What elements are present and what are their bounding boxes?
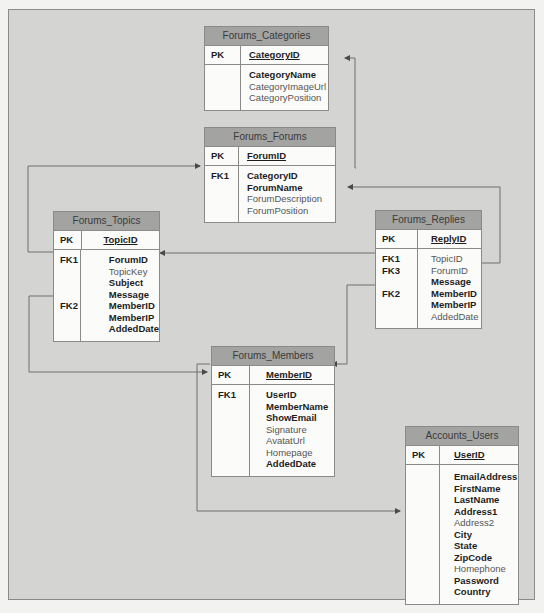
fk-label: FK1	[218, 389, 249, 401]
field: Message	[109, 289, 159, 301]
field: Password	[454, 575, 517, 587]
field: ShowEmail	[266, 412, 328, 424]
field-list: ForumID TopicKey Subject Message MemberI…	[81, 250, 159, 341]
field: MemberID	[431, 288, 479, 300]
table-title: Forums_Members	[212, 347, 334, 366]
field: Address1	[454, 506, 517, 518]
key-column: FK1 FK3 FK2	[376, 249, 418, 328]
fk-label: FK2	[382, 288, 417, 300]
key-column: FK1 FK2	[54, 250, 81, 341]
field: TopicKey	[109, 266, 159, 278]
pk-field: ForumID	[239, 147, 286, 165]
field: AvatatUrl	[266, 435, 328, 447]
table-forums-forums[interactable]: Forums_Forums PK ForumID FK1 CategoryID …	[204, 127, 336, 223]
field: ForumName	[247, 182, 322, 194]
pk-field: MemberID	[250, 366, 312, 384]
field: Address2	[454, 517, 517, 529]
fk-label: FK1	[211, 170, 238, 182]
field-list: UserID MemberName ShowEmail Signature Av…	[250, 385, 328, 476]
field: CategoryID	[247, 170, 322, 182]
fk-blank	[60, 289, 80, 301]
field: Country	[454, 586, 517, 598]
fk-blank	[60, 277, 80, 289]
key-column	[406, 465, 440, 604]
table-accounts-users[interactable]: Accounts_Users PK UserID EmailAddress Fi…	[405, 426, 519, 605]
field-list: EmailAddress FirstName LastName Address1…	[440, 465, 517, 604]
field: Subject	[109, 277, 159, 289]
field-list: CategoryID ForumName ForumDescription Fo…	[239, 166, 322, 222]
pk-label: PK	[205, 147, 239, 165]
pk-label: PK	[406, 446, 440, 464]
pk-field: TopicID	[82, 231, 159, 249]
field: AddedDate	[109, 323, 159, 335]
table-title: Accounts_Users	[406, 427, 518, 446]
table-forums-categories[interactable]: Forums_Categories PK CategoryID Category…	[204, 26, 329, 111]
field: FirstName	[454, 483, 517, 495]
pk-field: UserID	[440, 446, 485, 464]
field: AddedDate	[266, 458, 328, 470]
pk-label: PK	[205, 46, 241, 64]
table-title: Forums_Topics	[54, 212, 159, 231]
fk-blank	[382, 276, 417, 288]
fk-label: FK3	[382, 265, 417, 277]
field: Homepage	[266, 447, 328, 459]
field: AddedDate	[431, 311, 479, 323]
fk-label: FK1	[382, 253, 417, 265]
field: MemberIP	[431, 299, 479, 311]
field: ForumDescription	[247, 193, 322, 205]
field: MemberIP	[109, 312, 159, 324]
table-title: Forums_Replies	[376, 211, 481, 230]
field: State	[454, 540, 517, 552]
table-forums-replies[interactable]: Forums_Replies PK ReplyID FK1 FK3 FK2 To…	[375, 210, 482, 329]
table-title: Forums_Categories	[205, 27, 328, 46]
field: UserID	[266, 389, 328, 401]
field: CategoryPosition	[249, 92, 326, 104]
field: Signature	[266, 424, 328, 436]
pk-label: PK	[54, 231, 82, 249]
field: ForumPosition	[247, 205, 322, 217]
fk-blank	[60, 266, 80, 278]
field: CategoryName	[249, 69, 326, 81]
pk-field: CategoryID	[241, 46, 300, 64]
field: EmailAddress	[454, 471, 517, 483]
field: ForumID	[431, 265, 479, 277]
table-forums-topics[interactable]: Forums_Topics PK TopicID FK1 FK2 ForumID…	[53, 211, 160, 342]
fk-label: FK2	[60, 300, 80, 312]
field-list: CategoryName CategoryImageUrl CategoryPo…	[241, 65, 326, 110]
key-column: FK1	[212, 385, 250, 476]
field: City	[454, 529, 517, 541]
field: Message	[431, 276, 479, 288]
table-title: Forums_Forums	[205, 128, 335, 147]
fk-label: FK1	[60, 254, 80, 266]
pk-label: PK	[212, 366, 250, 384]
field: TopicID	[431, 253, 479, 265]
field: ZipCode	[454, 552, 517, 564]
key-column: FK1	[205, 166, 239, 222]
field: CategoryImageUrl	[249, 81, 326, 93]
key-column	[205, 65, 241, 110]
table-forums-members[interactable]: Forums_Members PK MemberID FK1 UserID Me…	[211, 346, 335, 477]
field-list: TopicID ForumID Message MemberID MemberI…	[418, 249, 479, 328]
field: ForumID	[109, 254, 159, 266]
field: MemberID	[109, 300, 159, 312]
field: MemberName	[266, 401, 328, 413]
pk-field: ReplyID	[418, 230, 466, 248]
pk-label: PK	[376, 230, 418, 248]
field: LastName	[454, 494, 517, 506]
field: Homephone	[454, 563, 517, 575]
